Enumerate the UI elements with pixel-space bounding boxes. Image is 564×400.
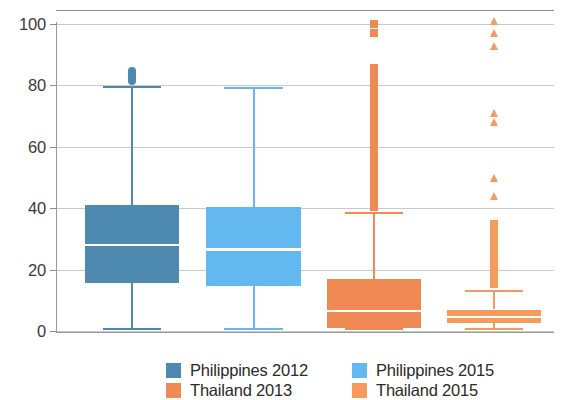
whisker-cap-upper-1 (224, 87, 283, 89)
whisker-cap-lower-0 (103, 328, 161, 330)
box-2 (327, 279, 421, 328)
median-line-0 (85, 244, 179, 246)
whisker-upper-3 (493, 291, 495, 309)
whisker-lower-1 (253, 286, 255, 328)
y-tick-label-100: 100 (19, 15, 46, 34)
y-tick-label-80: 80 (28, 76, 46, 95)
legend-item-thailand-2015[interactable]: Thailand 2015 (352, 381, 546, 400)
whisker-cap-lower-1 (224, 328, 283, 330)
outlier-cluster-0 (128, 67, 136, 85)
whisker-cap-upper-2 (345, 212, 403, 214)
y-tick-label-0: 0 (37, 322, 46, 341)
boxplot-chart: 020406080100 Philippines 2012Philippines… (0, 0, 564, 400)
plot-area (56, 22, 554, 333)
whisker-lower-0 (131, 283, 133, 329)
whisker-cap-upper-0 (103, 86, 161, 88)
median-line-3 (447, 316, 541, 318)
outlier-triangle-3-0 (490, 192, 498, 200)
whisker-cap-lower-3 (465, 328, 523, 330)
outlier-triangle-3-6 (490, 17, 498, 25)
whisker-upper-2 (373, 213, 375, 279)
median-line-1 (206, 248, 301, 250)
outlier-point-2-0 (370, 29, 378, 37)
legend-item-philippines-2012[interactable]: Philippines 2012 (166, 361, 352, 380)
outlier-cluster-3 (490, 220, 498, 288)
whisker-upper-1 (253, 88, 255, 206)
outlier-triangle-3-3 (490, 109, 498, 117)
median-line-2 (327, 310, 421, 312)
whisker-cap-upper-3 (465, 290, 523, 292)
legend-label: Thailand 2013 (190, 381, 292, 400)
whisker-cap-lower-2 (345, 328, 403, 330)
outlier-cluster-2 (370, 64, 378, 211)
outlier-point-2-1 (370, 20, 378, 28)
box-1 (206, 207, 301, 287)
outlier-triangle-3-5 (490, 29, 498, 37)
y-tick-label-40: 40 (28, 199, 46, 218)
legend-label: Thailand 2015 (376, 381, 478, 400)
chart-legend: Philippines 2012Philippines 2015Thailand… (166, 360, 546, 400)
legend-swatch-icon (166, 363, 181, 378)
legend-swatch-icon (166, 383, 181, 398)
chart-top-border (56, 10, 554, 11)
legend-label: Philippines 2015 (376, 361, 494, 380)
legend-label: Philippines 2012 (190, 361, 308, 380)
outlier-triangle-3-1 (490, 174, 498, 182)
y-tick-label-60: 60 (28, 137, 46, 156)
legend-item-philippines-2015[interactable]: Philippines 2015 (352, 361, 546, 380)
y-tick-label-20: 20 (28, 260, 46, 279)
legend-item-thailand-2013[interactable]: Thailand 2013 (166, 381, 352, 400)
legend-swatch-icon (352, 363, 367, 378)
outlier-triangle-3-2 (490, 118, 498, 126)
legend-swatch-icon (352, 383, 367, 398)
whisker-upper-0 (131, 87, 133, 205)
outlier-triangle-3-4 (490, 42, 498, 50)
